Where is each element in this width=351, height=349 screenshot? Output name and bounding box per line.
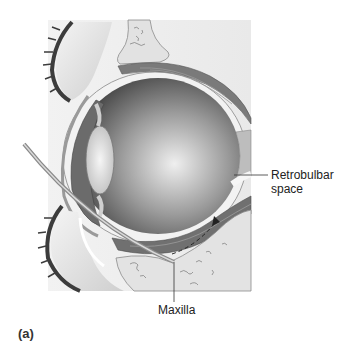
retrobulbar-label-line2: space	[271, 182, 351, 196]
maxilla-label: Maxilla	[158, 303, 195, 317]
retrobulbar-space-label: Retrobulbar space	[271, 168, 351, 196]
retrobulbar-label-line1: Retrobulbar	[271, 168, 351, 182]
panel-label: (a)	[18, 327, 34, 341]
